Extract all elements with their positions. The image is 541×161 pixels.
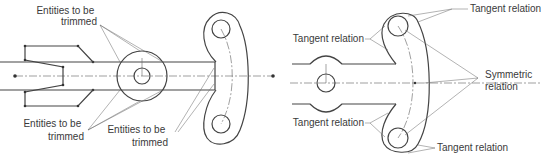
label-trim-bottom-center: Entities to be trimmed <box>107 124 168 148</box>
label-tangent-upper-left: Tangent relation <box>293 33 364 44</box>
sketch-diagram: Entities to be trimmed Entities to be tr… <box>0 0 541 161</box>
label-trim-top: Entities to be trimmed <box>36 5 97 27</box>
left-sketch: Entities to be trimmed Entities to be tr… <box>0 5 275 148</box>
label-tangent-bottom-right: Tangent relation <box>437 142 508 153</box>
label-symmetric: Symmetric relation <box>485 69 535 92</box>
curved-arm <box>204 12 249 144</box>
shaft-bottom-profile <box>292 104 396 112</box>
centerline-endpoint <box>13 74 17 78</box>
label-tangent-lower-left: Tangent relation <box>293 117 364 128</box>
label-tangent-top-right: Tangent relation <box>470 3 541 14</box>
shaft-top-profile <box>292 56 396 64</box>
label-trim-bottom-left: Entities to be trimmed <box>23 118 84 142</box>
leader-lines <box>88 25 214 132</box>
right-sketch: Tangent relation Tangent relation Symmet… <box>290 3 541 153</box>
centerline-endpoint <box>271 74 275 78</box>
